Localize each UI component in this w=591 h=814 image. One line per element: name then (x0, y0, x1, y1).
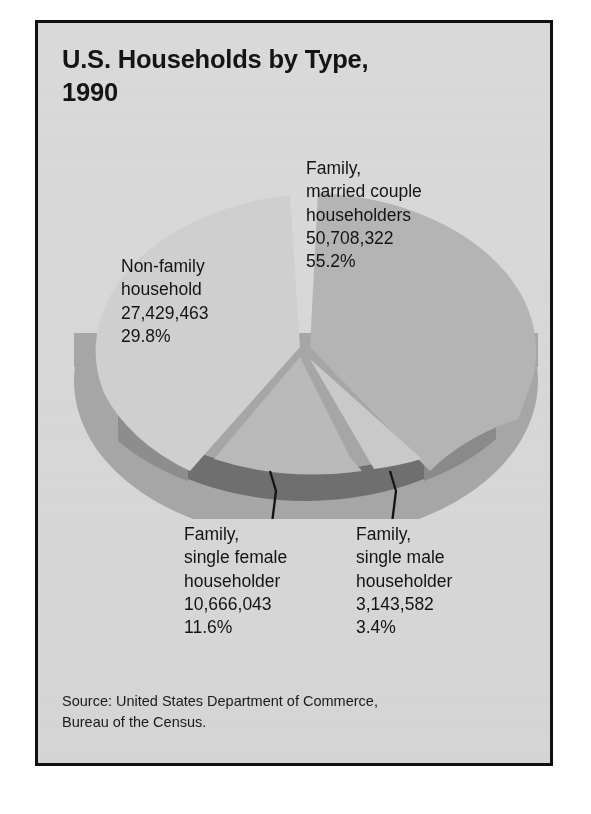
pie-chart (38, 119, 550, 519)
pie-label-single-female: Family, single female householder 10,666… (184, 523, 287, 639)
source-note: Source: United States Department of Comm… (62, 691, 512, 733)
pie-label-non-family: Non-family household 27,429,463 29.8% (121, 255, 209, 348)
pie-chart-svg (38, 119, 550, 519)
pie-label-married-couple: Family, married couple householders 50,7… (306, 157, 422, 273)
page-title: U.S. Households by Type, 1990 (62, 43, 492, 108)
pie-label-single-male: Family, single male householder 3,143,58… (356, 523, 452, 639)
figure-frame: U.S. Households by Type, 1990 (35, 20, 553, 766)
